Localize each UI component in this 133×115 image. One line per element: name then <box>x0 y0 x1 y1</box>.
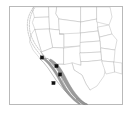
state-nebraska <box>80 31 100 43</box>
locality-dot-1 <box>40 56 43 59</box>
state-minnesota <box>97 7 112 25</box>
locality-dot-3 <box>58 73 61 76</box>
state-kansas <box>80 41 101 53</box>
locality-dot-2 <box>55 64 58 67</box>
state-new-mexico <box>64 46 81 65</box>
state-oklahoma <box>80 52 102 62</box>
state-washington <box>33 7 49 18</box>
state-mississippi <box>114 62 122 74</box>
state-oregon <box>33 17 50 30</box>
locality-dot-4 <box>52 81 55 84</box>
state-arkansas <box>101 48 115 62</box>
map-canvas <box>0 0 133 115</box>
species-distribution-map <box>0 0 133 115</box>
